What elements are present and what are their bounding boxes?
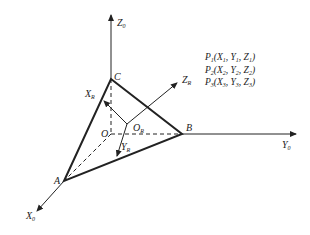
coordinate-diagram: Z0 Y0 X0 C B A O OR ZR XR YR P1(X1, Y1, … (0, 0, 310, 235)
point-or-label: OR (133, 122, 144, 134)
edge-oa-dashed (64, 134, 111, 181)
x0-label: X0 (25, 210, 35, 222)
yr-label: YR (121, 141, 131, 153)
point-b-label: B (186, 122, 192, 133)
point-list-item: P1(X1, Y1, Z1) (204, 52, 255, 63)
triangle-abc (64, 79, 182, 181)
y0-label: Y0 (282, 139, 291, 151)
z0-label: Z0 (117, 17, 126, 29)
xr-axis (104, 101, 127, 124)
point-list-item: P2(X2, Y2, Z2) (204, 65, 255, 76)
point-list: P1(X1, Y1, Z1) P2(X2, Y2, Z2) P3(X3, Y3,… (204, 52, 255, 88)
point-a-label: A (53, 175, 61, 186)
xr-label: XR (84, 88, 95, 100)
point-list-item: P3(X3, Y3, Z3) (204, 77, 255, 88)
zr-axis (127, 83, 177, 124)
point-c-label: C (114, 71, 121, 82)
zr-label: ZR (182, 74, 192, 86)
point-o-label: O (101, 128, 108, 139)
